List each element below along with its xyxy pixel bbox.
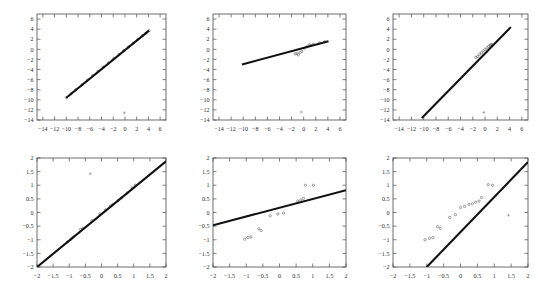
y-tick-label: −8 [383,87,389,93]
x-tick-label: 6 [338,126,341,132]
x-tick-label: −2 [470,126,476,132]
plot-panel-top-right: −14−12−10−8−6−4−202466420−2−4−6−8−10−12−… [356,2,538,146]
data-point [247,236,249,238]
x-tick-label: 0.5 [114,273,122,279]
y-tick-label: −12 [380,107,390,113]
outlier-point [89,172,92,175]
x-tick-label: 0.5 [292,273,300,279]
y-tick-label: 0 [30,47,33,53]
y-tick-label: 2 [206,36,209,42]
x-tick-label: 0.5 [474,273,482,279]
x-tick-label: −12 [226,126,236,132]
y-tick-label: −8 [203,87,209,93]
data-point [449,216,451,218]
outlier-point [482,111,485,114]
x-tick-label: −4 [98,126,104,132]
data-point [432,236,434,238]
x-tick-label: 4 [326,126,329,132]
data-point [250,236,252,238]
y-tick-label: 6 [386,16,389,22]
regression-line [427,162,528,267]
x-tick-label: −2 [390,273,396,279]
x-tick-label: −1 [424,273,430,279]
y-tick-label: 0.5 [26,196,34,202]
x-tick-label: −10 [238,126,248,132]
x-tick-label: −6 [445,126,451,132]
y-tick-label: −0.5 [22,223,33,229]
x-tick-label: −4 [457,126,463,132]
x-tick-label: −1 [66,273,72,279]
x-tick-label: −8 [75,126,81,132]
x-tick-label: −14 [38,126,48,132]
y-tick-label: −1.5 [198,251,209,257]
plot-frame [213,14,346,120]
x-tick-label: −6 [87,126,93,132]
y-tick-label: −14 [200,117,210,123]
x-tick-label: 1 [311,273,314,279]
y-tick-label: −1.5 [22,251,33,257]
y-tick-label: 1 [386,182,389,188]
y-tick-label: 4 [386,26,389,32]
data-point [304,184,306,186]
data-point [302,197,304,199]
y-tick-label: 1.5 [26,169,34,175]
y-tick-label: −1.5 [378,251,389,257]
data-point [475,201,477,203]
regression-line [66,31,149,98]
y-tick-label: −6 [383,77,389,83]
data-point [282,212,284,214]
data-point [468,203,470,205]
data-point [436,226,438,228]
y-tick-label: 0 [386,210,389,216]
x-tick-label: −10 [419,126,429,132]
x-tick-label: 0 [302,126,305,132]
x-tick-label: −8 [252,126,258,132]
y-tick-label: −6 [203,77,209,83]
y-tick-label: 6 [206,16,209,22]
x-tick-label: −2 [210,273,216,279]
x-tick-label: 1 [132,273,135,279]
x-tick-label: 2 [314,126,317,132]
regression-line [213,190,346,225]
y-tick-label: −1 [383,237,389,243]
x-tick-label: −2 [288,126,294,132]
plot-panel-bottom-center: −2−1.5−1−0.500.511.5221.510.50−0.5−1−1.5… [176,146,356,293]
data-point [459,206,461,208]
x-tick-label: −1.5 [404,273,415,279]
y-tick-label: 0 [386,47,389,53]
y-tick-label: −0.5 [378,223,389,229]
y-tick-label: −2 [27,57,33,63]
y-tick-label: −10 [24,97,34,103]
x-tick-label: −1 [243,273,249,279]
x-tick-label: 2 [164,273,167,279]
regression-line [242,41,328,64]
x-tick-label: 1.5 [326,273,334,279]
x-tick-label: 0 [459,273,462,279]
x-tick-label: 0 [123,126,126,132]
plot-panel-top-left: −14−12−10−8−6−4−202466420−2−4−6−8−10−12−… [0,2,176,146]
data-point [277,213,279,215]
data-point [439,227,441,229]
x-tick-label: −12 [407,126,417,132]
x-tick-label: −1.5 [48,273,59,279]
x-tick-label: −14 [214,126,224,132]
y-tick-label: −2 [27,264,33,270]
outlier-point [300,110,303,113]
y-tick-label: 2 [30,36,33,42]
x-tick-label: 1.5 [146,273,154,279]
y-tick-label: 0 [206,210,209,216]
x-tick-label: −0.5 [80,273,91,279]
y-tick-label: 1.5 [202,169,210,175]
x-tick-label: 2 [496,126,499,132]
x-tick-label: 0 [100,273,103,279]
plot-panel-bottom-left: −2−1.5−1−0.500.511.5221.510.50−0.5−1−1.5… [0,146,176,293]
x-tick-label: 4 [147,126,150,132]
data-point [491,184,493,186]
data-point [478,200,480,202]
x-tick-label: 6 [520,126,523,132]
data-point [301,50,303,52]
x-tick-label: 1.5 [507,273,515,279]
y-tick-label: −14 [380,117,390,123]
regression-line [422,27,511,118]
y-tick-label: 2 [206,155,209,161]
